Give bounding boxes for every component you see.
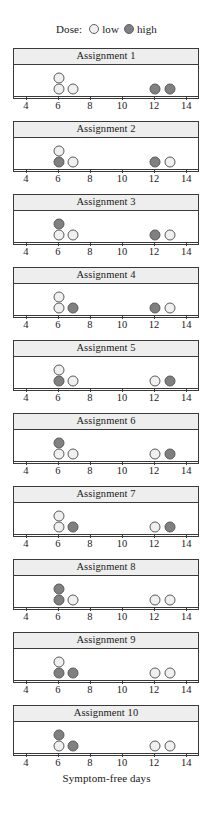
data-point-low bbox=[53, 365, 64, 376]
panel-plot-area-5 bbox=[14, 357, 198, 390]
data-point-high bbox=[164, 84, 175, 95]
axis-tick-label: 8 bbox=[87, 758, 92, 769]
axis-tick-label: 4 bbox=[23, 539, 28, 550]
panel-title-5: Assignment 5 bbox=[14, 341, 198, 357]
axis-tick-label: 12 bbox=[149, 101, 160, 112]
data-point-low bbox=[67, 230, 78, 241]
legend-swatch-high-icon bbox=[124, 24, 134, 34]
panel-title-10: Assignment 10 bbox=[14, 706, 198, 722]
data-point-low bbox=[67, 449, 78, 460]
data-point-high bbox=[150, 303, 161, 314]
data-point-high bbox=[53, 730, 64, 741]
data-point-low bbox=[53, 230, 64, 241]
axis-tick-label: 10 bbox=[117, 174, 128, 185]
axis-tick-label: 10 bbox=[117, 247, 128, 258]
panel-title-3: Assignment 3 bbox=[14, 195, 198, 211]
panel-8: Assignment 8 bbox=[13, 559, 199, 610]
x-axis-4: 468101214 bbox=[13, 315, 199, 332]
data-point-low bbox=[53, 73, 64, 84]
data-point-high bbox=[164, 376, 175, 387]
axis-tick-label: 4 bbox=[23, 612, 28, 623]
data-point-low bbox=[150, 741, 161, 752]
axis-tick-label: 8 bbox=[87, 685, 92, 696]
axis-tick-label: 10 bbox=[117, 101, 128, 112]
panel-5: Assignment 5 bbox=[13, 340, 199, 391]
data-point-high bbox=[164, 449, 175, 460]
axis-tick-label: 12 bbox=[149, 612, 160, 623]
axis-tick-label: 8 bbox=[87, 174, 92, 185]
axis-tick-label: 8 bbox=[87, 539, 92, 550]
data-point-low bbox=[150, 376, 161, 387]
axis-tick-label: 8 bbox=[87, 101, 92, 112]
panel-title-8: Assignment 8 bbox=[14, 560, 198, 576]
data-point-low bbox=[67, 157, 78, 168]
panel-title-6: Assignment 6 bbox=[14, 414, 198, 430]
axis-tick-label: 12 bbox=[149, 320, 160, 331]
data-point-low bbox=[164, 303, 175, 314]
axis-line bbox=[13, 534, 199, 535]
x-axis-9: 468101214 bbox=[13, 680, 199, 697]
axis-tick-label: 14 bbox=[181, 612, 192, 623]
x-axis-5: 468101214 bbox=[13, 388, 199, 405]
data-point-high bbox=[67, 668, 78, 679]
axis-tick-label: 12 bbox=[149, 466, 160, 477]
data-point-low bbox=[164, 741, 175, 752]
data-point-high bbox=[53, 438, 64, 449]
axis-tick-label: 4 bbox=[23, 393, 28, 404]
axis-line bbox=[13, 461, 199, 462]
axis-tick-label: 6 bbox=[55, 174, 60, 185]
data-point-high bbox=[164, 522, 175, 533]
axis-tick-label: 14 bbox=[181, 247, 192, 258]
x-axis-6: 468101214 bbox=[13, 461, 199, 478]
data-point-high bbox=[53, 584, 64, 595]
axis-tick-label: 6 bbox=[55, 247, 60, 258]
data-point-high bbox=[150, 230, 161, 241]
axis-tick-label: 8 bbox=[87, 320, 92, 331]
axis-tick-label: 8 bbox=[87, 466, 92, 477]
axis-line bbox=[13, 96, 199, 97]
axis-line bbox=[13, 242, 199, 243]
axis-tick-label: 12 bbox=[149, 174, 160, 185]
panel-plot-area-9 bbox=[14, 649, 198, 682]
axis-tick-label: 4 bbox=[23, 320, 28, 331]
axis-tick-label: 6 bbox=[55, 685, 60, 696]
panel-10: Assignment 10 bbox=[13, 705, 199, 756]
axis-tick-label: 4 bbox=[23, 685, 28, 696]
panel-plot-area-1 bbox=[14, 65, 198, 98]
panel-title-2: Assignment 2 bbox=[14, 122, 198, 138]
panel-plot-area-7 bbox=[14, 503, 198, 536]
axis-tick-label: 10 bbox=[117, 612, 128, 623]
dot-plot-figure: Dose: low high Assignment 1468101214Assi… bbox=[0, 0, 213, 839]
axis-tick-label: 4 bbox=[23, 174, 28, 185]
panel-4: Assignment 4 bbox=[13, 267, 199, 318]
axis-tick-label: 8 bbox=[87, 612, 92, 623]
data-point-low bbox=[150, 668, 161, 679]
axis-line bbox=[13, 607, 199, 608]
panel-title-7: Assignment 7 bbox=[14, 487, 198, 503]
panel-1: Assignment 1 bbox=[13, 48, 199, 99]
panel-plot-area-2 bbox=[14, 138, 198, 171]
data-point-low bbox=[53, 146, 64, 157]
axis-tick-label: 14 bbox=[181, 320, 192, 331]
data-point-low bbox=[53, 449, 64, 460]
legend-swatch-low-icon bbox=[89, 24, 99, 34]
panel-plot-area-8 bbox=[14, 576, 198, 609]
data-point-low bbox=[67, 376, 78, 387]
axis-line bbox=[13, 680, 199, 681]
axis-tick-label: 12 bbox=[149, 539, 160, 550]
data-point-low bbox=[53, 292, 64, 303]
axis-tick-label: 6 bbox=[55, 320, 60, 331]
panel-7: Assignment 7 bbox=[13, 486, 199, 537]
data-point-high bbox=[67, 741, 78, 752]
axis-tick-label: 6 bbox=[55, 393, 60, 404]
axis-tick-label: 6 bbox=[55, 612, 60, 623]
x-axis-10: 468101214 bbox=[13, 753, 199, 770]
data-point-high bbox=[150, 84, 161, 95]
axis-tick-label: 14 bbox=[181, 101, 192, 112]
axis-tick-label: 4 bbox=[23, 247, 28, 258]
panel-plot-area-6 bbox=[14, 430, 198, 463]
x-axis-8: 468101214 bbox=[13, 607, 199, 624]
legend-entry-high: high bbox=[124, 23, 157, 35]
panel-6: Assignment 6 bbox=[13, 413, 199, 464]
legend: Dose: low high bbox=[0, 20, 213, 38]
